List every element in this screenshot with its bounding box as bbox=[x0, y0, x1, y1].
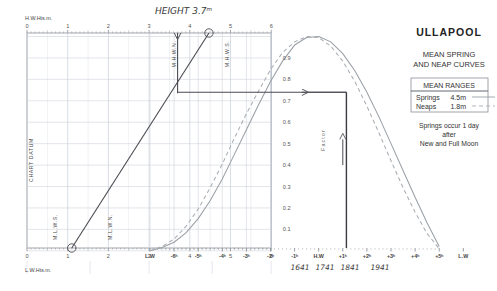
mhwn-label: M.H.W.N. bbox=[171, 41, 177, 68]
time-annotation-1: 1741 bbox=[315, 263, 334, 272]
hw-height-tick-label: 3 bbox=[148, 23, 151, 29]
panel-subtitle-line2: AND NEAP CURVES bbox=[413, 60, 484, 69]
time-tick-label: -4ʰ bbox=[219, 253, 226, 259]
factor-tick-label: 0.4 bbox=[283, 162, 291, 168]
grid-lines bbox=[27, 33, 271, 251]
range-diagonal-line bbox=[72, 33, 209, 248]
time-tick-label: -5ʰ bbox=[195, 253, 202, 259]
time-tick-label: +5ʰ bbox=[435, 253, 443, 259]
hw-height-tick-label: 1 bbox=[66, 23, 69, 29]
range-springs-value: 4.5m bbox=[450, 94, 466, 101]
time-tick-label: -6ʰ bbox=[171, 253, 178, 259]
lw-height-tick-label: 1 bbox=[66, 253, 69, 259]
range-springs-label: Springs bbox=[416, 94, 440, 102]
range-neaps-value: 1.8m bbox=[450, 103, 466, 110]
time-annotation-2: 1841 bbox=[340, 263, 359, 272]
time-tick-label: -3ʰ bbox=[243, 253, 250, 259]
lw-height-tick-label: 5 bbox=[229, 253, 232, 259]
hw-heights-caption: H.W.Hts.m. bbox=[25, 15, 52, 21]
time-tick-label: +2ʰ bbox=[363, 253, 371, 259]
factor-tick-label: 0.9 bbox=[283, 55, 291, 61]
panel-note-line1: Springs occur 1 day bbox=[419, 122, 480, 130]
factor-tick-label: 0.7 bbox=[283, 98, 291, 104]
time-tick-label: L.W bbox=[458, 253, 469, 259]
mlwn-label: M.L.W.N. bbox=[107, 214, 113, 240]
time-tick-label: +4ʰ bbox=[411, 253, 419, 259]
axis-labels: 00112233445566L.W-6ʰ-5ʰ-4ʰ-3ʰ-2ʰ-1ʰH.W+1… bbox=[25, 23, 469, 274]
panel-subtitle-line1: MEAN SPRING bbox=[423, 50, 476, 59]
time-tick-label: +1ʰ bbox=[339, 253, 347, 259]
time-tick-label: -1ʰ bbox=[291, 253, 298, 259]
mhws-label: M.H.W.S. bbox=[224, 41, 230, 68]
panel-note-line2: after bbox=[442, 131, 456, 138]
panel-title: ULLAPOOL bbox=[416, 26, 482, 38]
time-annotation-3: 1941 bbox=[370, 263, 389, 272]
time-annotation-0: 1641 bbox=[290, 263, 309, 272]
hw-height-tick-label: 0 bbox=[25, 23, 28, 29]
height-annotation: HEIGHT 3.7ᵐ bbox=[155, 6, 213, 16]
time-tick-label: -2ʰ bbox=[267, 253, 274, 259]
time-tick-label: L.W bbox=[145, 253, 156, 259]
mean-ranges-header: MEAN RANGES bbox=[423, 82, 475, 89]
time-tick-label: H.W bbox=[313, 253, 324, 259]
hw-height-tick-label: 2 bbox=[107, 23, 110, 29]
panel-note-line3: New and Full Moon bbox=[420, 140, 479, 147]
chart-datum-label: CHART DATUM bbox=[28, 138, 34, 182]
hw-height-tick-label: 6 bbox=[270, 23, 273, 29]
factor-tick-label: 0.6 bbox=[283, 119, 291, 125]
axis-ticks bbox=[27, 30, 463, 252]
range-neaps-label: Neaps bbox=[416, 103, 437, 111]
lw-height-tick-label: 0 bbox=[25, 253, 28, 259]
factor-tick-label: 0.5 bbox=[283, 141, 291, 147]
hw-height-tick-label: 4 bbox=[188, 23, 191, 29]
hw-height-tick-label: 5 bbox=[229, 23, 232, 29]
mlws-label: M.L.W.S. bbox=[52, 214, 58, 240]
lw-heights-caption: L.W.Hts.m. bbox=[25, 267, 51, 273]
diagram-canvas: 00112233445566L.W-6ʰ-5ʰ-4ʰ-3ʰ-2ʰ-1ʰH.W+1… bbox=[0, 0, 497, 291]
factor-tick-label: 0.1 bbox=[283, 226, 291, 232]
factor-tick-label: 0.3 bbox=[283, 184, 291, 190]
lw-height-tick-label: 4 bbox=[188, 253, 191, 259]
factor-tick-label: 0.2 bbox=[283, 205, 291, 211]
tidal-curve-diagram: 00112233445566L.W-6ʰ-5ʰ-4ʰ-3ʰ-2ʰ-1ʰH.W+1… bbox=[0, 0, 497, 291]
factor-tick-label: 0.8 bbox=[283, 76, 291, 82]
time-tick-label: +3ʰ bbox=[387, 253, 395, 259]
lw-height-tick-label: 2 bbox=[107, 253, 110, 259]
factor-axis-label: Factor bbox=[320, 129, 326, 151]
